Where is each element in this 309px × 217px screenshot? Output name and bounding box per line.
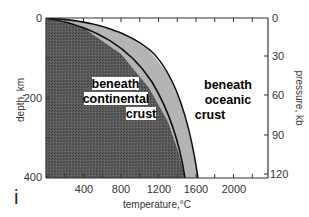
y-right-tick-120: 120	[270, 168, 288, 180]
svg-text:crust: crust	[126, 107, 157, 121]
x-axis-title: temperature,°C	[123, 199, 191, 210]
svg-text:oceanic: oceanic	[205, 93, 252, 107]
y-right-tick-90: 90	[272, 129, 284, 141]
svg-text:beneath: beneath	[204, 78, 252, 92]
y-right-tick-60: 60	[272, 89, 284, 101]
x-tick-400: 400	[75, 183, 93, 195]
svg-text:continental: continental	[83, 92, 150, 106]
y-right-tick-30: 30	[272, 50, 284, 62]
x-tick-1600: 1600	[184, 183, 208, 195]
y-left-axis-title: depth, km	[15, 78, 26, 122]
x-tick-800: 800	[112, 183, 130, 195]
svg-text:crust: crust	[195, 108, 226, 122]
svg-text:beneath: beneath	[92, 77, 140, 91]
x-tick-2000: 2000	[222, 183, 246, 195]
geotherm-chart: 0 200 400 0 30 60 90 120 400 800 1200 16…	[0, 0, 309, 217]
y-right-tick-0: 0	[272, 12, 278, 24]
y-left-tick-400: 400	[24, 171, 42, 183]
y-right-axis-title: pressure, kb	[294, 70, 305, 125]
x-tick-1200: 1200	[147, 183, 171, 195]
oceanic-label: beneath oceanic crust	[195, 78, 252, 122]
y-left-tick-0: 0	[36, 12, 42, 24]
y-left-tick-200: 200	[24, 92, 42, 104]
panel-label: i	[14, 186, 18, 208]
